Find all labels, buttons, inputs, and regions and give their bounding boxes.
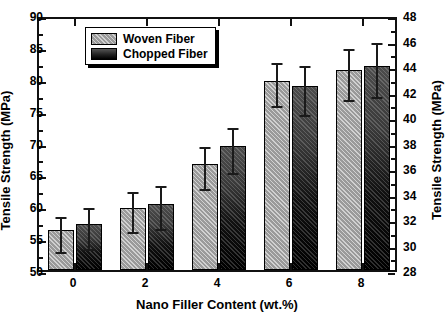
- x-tick-label: 6: [269, 276, 309, 290]
- legend-swatch-woven-fiber: [91, 33, 117, 45]
- error-cap-lower-woven-4: [200, 189, 211, 191]
- error-bar-chopped-6: [304, 66, 306, 116]
- x-tick-mark-top: [362, 19, 364, 26]
- error-cap-upper-woven-6: [272, 63, 283, 65]
- legend-item-chopped-fiber: Chopped Fiber: [91, 46, 208, 61]
- tensile-strength-bar-chart: Tensile Strength (MPa) Tensile Strength …: [0, 0, 446, 321]
- error-cap-lower-chopped-8: [372, 97, 383, 99]
- x-tick-label: 2: [125, 276, 165, 290]
- legend-item-woven-fiber: Woven Fiber: [91, 31, 208, 46]
- y-tick-mark-minor-right: [391, 56, 395, 58]
- y-tick-label-left: 80: [17, 74, 43, 88]
- error-cap-upper-chopped-6: [300, 66, 311, 68]
- y-tick-mark-right: [388, 18, 395, 20]
- error-cap-lower-woven-8: [344, 100, 355, 102]
- y-tick-label-left: 70: [17, 138, 43, 152]
- y-tick-label-left: 55: [17, 233, 43, 247]
- y-tick-label-right: 32: [403, 214, 429, 228]
- error-cap-lower-woven-2: [128, 232, 139, 234]
- y-tick-mark-minor-left: [39, 161, 43, 163]
- x-tick-label: 8: [341, 276, 381, 290]
- y-tick-label-left: 85: [17, 42, 43, 56]
- x-tick-mark-top: [74, 19, 76, 26]
- y-tick-label-right: 30: [403, 240, 429, 254]
- y-tick-label-left: 50: [17, 265, 43, 279]
- error-bar-woven-2: [132, 192, 134, 232]
- y-tick-mark-minor-right: [391, 133, 395, 135]
- y-tick-label-left: 60: [17, 201, 43, 215]
- error-bar-woven-4: [204, 147, 206, 189]
- y-tick-mark-minor-right: [391, 209, 395, 211]
- y-tick-label-left: 90: [17, 10, 43, 24]
- y-tick-label-right: 46: [403, 36, 429, 50]
- y-tick-label-right: 44: [403, 61, 429, 75]
- legend-label-chopped-fiber: Chopped Fiber: [123, 47, 208, 61]
- y-tick-label-right: 28: [403, 265, 429, 279]
- error-cap-upper-woven-8: [344, 49, 355, 51]
- error-bar-woven-6: [276, 63, 278, 106]
- error-bar-chopped-0: [88, 208, 90, 249]
- y-tick-mark-minor-left: [39, 130, 43, 132]
- y-tick-label-right: 38: [403, 138, 429, 152]
- error-cap-lower-chopped-4: [228, 173, 239, 175]
- error-bar-chopped-8: [376, 43, 378, 97]
- y-tick-label-right: 40: [403, 112, 429, 126]
- x-axis-label: Nano Filler Content (wt.%): [37, 297, 397, 312]
- x-tick-label: 0: [53, 276, 93, 290]
- x-tick-label: 4: [197, 276, 237, 290]
- y-tick-mark-minor-left: [39, 34, 43, 36]
- error-bar-woven-8: [348, 49, 350, 100]
- error-bar-chopped-2: [160, 186, 162, 229]
- y-tick-mark-minor-right: [391, 184, 395, 186]
- error-cap-upper-chopped-2: [156, 186, 167, 188]
- error-cap-upper-woven-2: [128, 192, 139, 194]
- legend-label-woven-fiber: Woven Fiber: [123, 32, 195, 46]
- error-cap-lower-woven-6: [272, 106, 283, 108]
- x-tick-mark-top: [290, 19, 292, 26]
- x-tick-mark-top: [218, 19, 220, 26]
- y-tick-mark-right: [388, 273, 395, 275]
- y-tick-label-right: 48: [403, 10, 429, 24]
- y-tick-mark-right: [388, 44, 395, 46]
- legend-swatch-chopped-fiber: [91, 48, 117, 60]
- error-cap-lower-woven-0: [56, 252, 67, 254]
- error-cap-upper-woven-4: [200, 147, 211, 149]
- x-tick-mark-top: [146, 19, 148, 26]
- y-tick-mark-minor-right: [391, 82, 395, 84]
- y-tick-mark-minor-left: [39, 193, 43, 195]
- bar-woven-6: [264, 81, 290, 270]
- error-cap-lower-chopped-2: [156, 229, 167, 231]
- y-tick-label-left: 75: [17, 106, 43, 120]
- plot-area: Woven Fiber Chopped Fiber: [37, 17, 397, 272]
- error-cap-upper-chopped-4: [228, 128, 239, 130]
- y-tick-mark-minor-left: [39, 257, 43, 259]
- y-tick-label-left: 65: [17, 169, 43, 183]
- y-tick-mark-minor-right: [391, 107, 395, 109]
- y-tick-mark-minor-right: [391, 31, 395, 33]
- error-cap-upper-chopped-0: [84, 208, 95, 210]
- y-tick-mark-minor-left: [39, 66, 43, 68]
- y-tick-label-right: 36: [403, 163, 429, 177]
- error-bar-woven-0: [60, 217, 62, 251]
- error-cap-upper-chopped-8: [372, 43, 383, 45]
- error-cap-lower-chopped-0: [84, 249, 95, 251]
- error-bar-chopped-4: [232, 128, 234, 173]
- error-cap-lower-chopped-6: [300, 115, 311, 117]
- error-cap-upper-woven-0: [56, 217, 67, 219]
- legend: Woven Fiber Chopped Fiber: [85, 27, 216, 65]
- y-tick-mark-minor-right: [391, 235, 395, 237]
- y-tick-mark-minor-right: [391, 158, 395, 160]
- y-tick-mark-minor-left: [39, 225, 43, 227]
- y-tick-label-right: 34: [403, 189, 429, 203]
- y-tick-label-right: 42: [403, 87, 429, 101]
- y-tick-mark-minor-left: [39, 98, 43, 100]
- y-tick-mark-minor-right: [391, 260, 395, 262]
- y-axis-label-left: Tensile Strength (MPa): [0, 0, 14, 321]
- y-axis-label-right: Tensile Strength (MPa): [427, 0, 445, 300]
